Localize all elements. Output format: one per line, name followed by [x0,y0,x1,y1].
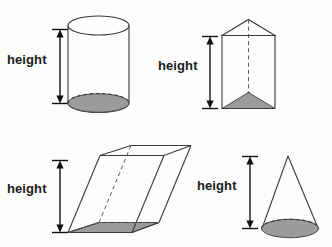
figure-oblique-prism: height [0,123,166,247]
figure-cone: height [166,123,332,247]
diagram-canvas: height height [0,0,332,247]
cone-body [262,156,318,229]
height-arrow-triangular-prism [202,37,218,109]
height-arrow-cone [242,157,258,229]
height-arrow-cylinder [52,30,68,104]
cylinder-base-shade [68,94,129,112]
cone-drawing [166,123,332,247]
oblique-hidden-edges [68,146,159,233]
figure-cylinder: height [0,0,166,123]
prism-base-shade [222,93,275,109]
height-arrow-oblique-prism [52,161,68,233]
height-label-cylinder: height [7,52,47,67]
height-label-triangular-prism: height [158,58,198,73]
height-label-oblique-prism: height [7,181,47,196]
height-label-cone: height [197,178,237,193]
figure-triangular-prism: height [166,0,332,123]
